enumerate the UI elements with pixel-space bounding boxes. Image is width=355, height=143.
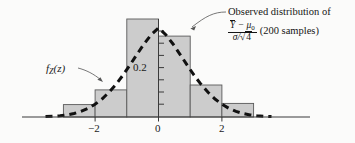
fraction-denominator: σ/√4	[231, 33, 254, 43]
curve-label-arg: (z)	[54, 62, 66, 74]
annotation-line-1: Observed distribution of	[228, 6, 354, 18]
annotation-leader-line	[192, 12, 226, 27]
density-curve-label: fZ(z)	[46, 62, 65, 76]
radicand: 4	[245, 31, 252, 42]
y-axis-label-0-2: 0.2	[133, 61, 147, 73]
annotation-leader-arrow	[190, 26, 196, 31]
test-statistic-fraction: Y − μ0 σ/√4	[228, 20, 257, 43]
square-root-icon: √4	[240, 33, 252, 43]
x-axis-ticks	[95, 117, 222, 122]
minus-sign: −	[235, 20, 246, 30]
histogram-bar	[159, 36, 191, 117]
x-axis-label-neg2: −2	[88, 122, 100, 134]
figure-container: 0.2 −2 0 2 fZ(z) Observed distribution o…	[0, 0, 355, 143]
fraction-numerator: Y − μ0	[228, 20, 257, 32]
histogram-bar	[95, 90, 127, 117]
x-axis-label-0: 0	[155, 122, 161, 134]
histogram-bar	[63, 105, 95, 117]
annotation-line-2: Y − μ0 σ/√4 (200 samples)	[228, 20, 354, 43]
observed-distribution-annotation: Observed distribution of Y − μ0 σ/√4 (20…	[228, 6, 354, 43]
x-axis-label-2: 2	[219, 122, 225, 134]
sample-count-note: (200 samples)	[260, 25, 319, 37]
curve-label-leader-line	[78, 68, 101, 80]
sigma-over: σ/	[233, 32, 240, 42]
